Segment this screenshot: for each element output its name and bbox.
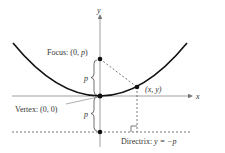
vertex-label: Vertex: (0, 0) (15, 105, 58, 114)
p-label-upper: p (83, 74, 88, 83)
point-label: (x, y) (145, 85, 162, 94)
p-label-lower: p (83, 110, 88, 119)
right-angle-marker (131, 126, 137, 132)
y-axis-label: y (96, 6, 101, 15)
directrix-label: Directrix: y = −p (121, 137, 176, 146)
focus-point (98, 57, 103, 62)
parabola-diagram: y x Focus: (0, p) p p Vertex: (0, 0) (x,… (0, 0, 225, 153)
focus-to-point-line (100, 59, 137, 87)
directrix-point (98, 130, 103, 135)
curve-point (135, 85, 140, 90)
vertex-point (98, 94, 103, 99)
x-axis-label: x (195, 92, 200, 101)
focus-label: Focus: (0, p) (47, 48, 88, 57)
vertex-leader-line (66, 97, 98, 104)
brace-lower (91, 97, 97, 131)
brace-upper (91, 60, 97, 95)
